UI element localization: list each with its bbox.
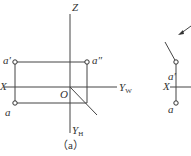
label-origin: O [60, 89, 68, 100]
b-label-a: a [168, 104, 174, 115]
b-label-x: X [163, 81, 170, 92]
diagram-lines [0, 0, 191, 156]
label-x: X [0, 81, 7, 92]
point-a-prime [13, 60, 17, 64]
point-a [13, 101, 17, 105]
label-a-prime: a′ [3, 55, 11, 66]
label-yh-sub: H [78, 130, 83, 138]
label-a-double-prime: a″ [92, 55, 102, 66]
label-a: a [5, 107, 11, 118]
b-point-a [174, 101, 178, 105]
label-yw-sub: W [125, 87, 132, 95]
point-a-double-prime [85, 60, 89, 64]
b-rotated-line [165, 42, 176, 62]
45-degree-line [70, 87, 97, 115]
caption-a: （a） [57, 140, 84, 151]
b-point-a-prime [174, 60, 178, 64]
arrow-head-icon [178, 30, 184, 35]
label-z: Z [72, 2, 78, 13]
label-yw: YW [119, 82, 132, 95]
label-yh: YH [72, 125, 83, 138]
